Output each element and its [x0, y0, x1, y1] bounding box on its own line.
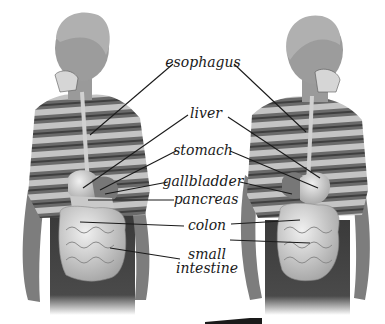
label-pancreas: pancreas — [174, 191, 239, 207]
label-small-intestine-line1: small — [176, 247, 238, 261]
right-boy-figure — [241, 15, 370, 315]
right-mouth-cavity — [315, 69, 340, 92]
label-small-intestine-line2: intestine — [176, 261, 238, 275]
label-gallbladder: gallbladder — [163, 173, 244, 189]
left-boy-figure — [23, 12, 150, 315]
label-esophagus: esophagus — [165, 54, 240, 70]
label-stomach: stomach — [173, 142, 233, 158]
bottom-edge-artifact — [205, 318, 262, 324]
left-mouth-cavity — [55, 71, 78, 92]
label-colon: colon — [188, 217, 226, 233]
label-liver: liver — [190, 105, 222, 121]
label-small-intestine: small intestine — [176, 247, 238, 275]
